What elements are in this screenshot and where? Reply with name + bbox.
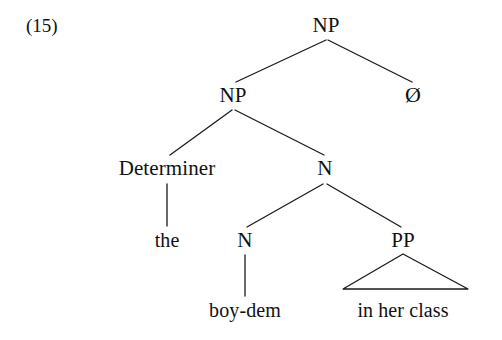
tree-node-n-low: N <box>237 230 252 251</box>
tree-node-boy-dem: boy-dem <box>209 300 281 320</box>
tree-node-null-det: Ø <box>405 84 421 106</box>
tree-edge-np-inner-to-n-mid <box>235 110 324 155</box>
tree-edge-np-inner-to-determiner <box>170 110 232 155</box>
tree-edge-n-mid-to-pp <box>327 184 401 227</box>
tree-node-pp: PP <box>391 230 415 251</box>
tree-edge-np-root-to-np-inner <box>236 40 326 82</box>
tree-node-np-inner: NP <box>219 85 246 106</box>
tree-node-determiner: Determiner <box>119 158 216 179</box>
tree-triangles <box>343 254 468 289</box>
tree-node-in-her-class: in her class <box>357 300 448 320</box>
tree-node-n-mid: N <box>317 158 332 179</box>
tree-branches <box>0 0 502 340</box>
tree-edge-n-mid-to-n-low <box>247 184 323 227</box>
tree-edge-np-root-to-null-det <box>328 40 412 82</box>
tree-node-np-root: NP <box>312 15 339 36</box>
syntax-tree-figure: (15) NPNPØDeterminerNtheNPPboy-demin her… <box>0 0 502 340</box>
tree-node-the: the <box>155 230 180 250</box>
triangle-pp <box>343 254 468 289</box>
